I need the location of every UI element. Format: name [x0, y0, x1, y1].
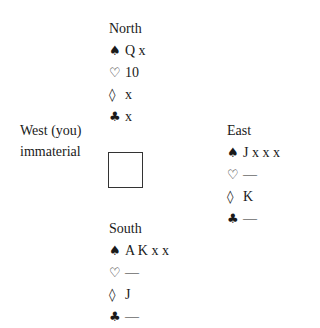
south-hearts: ♡— — [109, 262, 169, 284]
south-clubs: ♣— — [109, 306, 169, 328]
east-clubs: ♣— — [227, 208, 280, 230]
spade-icon: ♠ — [109, 240, 125, 262]
heart-icon: ♡ — [109, 262, 125, 284]
diamond-icon: ◊ — [109, 284, 125, 306]
north-clubs: ♣x — [109, 106, 146, 128]
east-hand: East ♠J x x x ♡— ◊K ♣— — [227, 120, 280, 230]
north-hand: North ♠Q x ♡10 ◊x ♣x — [109, 18, 146, 128]
south-hand: South ♠A K x x ♡— ◊J ♣— — [109, 218, 169, 328]
west-note: immaterial — [20, 141, 81, 162]
diamond-icon: ◊ — [109, 84, 125, 106]
heart-icon: ♡ — [109, 62, 125, 84]
spade-icon: ♠ — [227, 142, 243, 164]
south-spades: ♠A K x x — [109, 240, 169, 262]
table-square — [108, 152, 143, 188]
spade-icon: ♠ — [109, 40, 125, 62]
north-spades: ♠Q x — [109, 40, 146, 62]
east-spades: ♠J x x x — [227, 142, 280, 164]
south-title: South — [109, 218, 169, 240]
north-hearts: ♡10 — [109, 62, 146, 84]
heart-icon: ♡ — [227, 164, 243, 186]
south-diamonds: ◊J — [109, 284, 169, 306]
west-hand: West (you) immaterial — [20, 120, 81, 162]
east-diamonds: ◊K — [227, 186, 280, 208]
west-title: West (you) — [20, 120, 81, 141]
north-title: North — [109, 18, 146, 40]
east-hearts: ♡— — [227, 164, 280, 186]
diamond-icon: ◊ — [227, 186, 243, 208]
club-icon: ♣ — [109, 306, 125, 328]
club-icon: ♣ — [227, 208, 243, 230]
east-title: East — [227, 120, 280, 142]
north-diamonds: ◊x — [109, 84, 146, 106]
club-icon: ♣ — [109, 106, 125, 128]
